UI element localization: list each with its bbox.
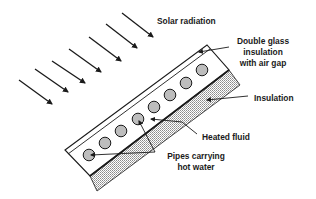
radiation-arrow-icon: [35, 69, 68, 92]
solar-collector-diagram: Solar radiation Double glass insulation …: [0, 0, 316, 199]
radiation-arrow-icon: [52, 61, 85, 83]
label-double-glass: Double glass insulation with air gap: [237, 36, 289, 68]
label-pipes: Pipes carrying hot water: [167, 151, 225, 172]
radiation-arrow-icon: [69, 49, 101, 72]
pipe-icon: [148, 101, 160, 113]
svg-text:hot water: hot water: [177, 162, 215, 172]
pipe-icon: [115, 125, 127, 137]
label-solar-radiation: Solar radiation: [157, 16, 216, 26]
svg-text:Double glass: Double glass: [237, 36, 289, 46]
radiation-arrow-icon: [89, 37, 121, 61]
pipe-icon: [132, 113, 144, 125]
svg-text:Pipes carrying: Pipes carrying: [167, 151, 225, 161]
pipe-icon: [180, 77, 192, 89]
label-heated-fluid: Heated fluid: [202, 132, 250, 142]
pipe-icon: [164, 89, 176, 101]
solar-radiation-arrows: [19, 13, 153, 104]
radiation-arrow-icon: [19, 80, 52, 104]
pipe-icon: [196, 64, 208, 76]
radiation-arrow-icon: [106, 24, 137, 48]
svg-text:with air gap: with air gap: [239, 58, 287, 68]
pipe-icon: [99, 137, 111, 149]
radiation-arrow-icon: [122, 13, 153, 37]
label-insulation: Insulation: [254, 93, 294, 103]
svg-text:insulation: insulation: [243, 47, 283, 57]
